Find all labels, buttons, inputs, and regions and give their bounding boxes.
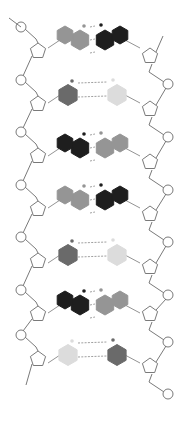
- phosphodiester-bond: [149, 222, 164, 240]
- atom-dot: [111, 78, 115, 82]
- hydrogen-bond: [78, 82, 107, 83]
- phosphate-circle: [163, 290, 173, 300]
- base-pair: [48, 288, 140, 318]
- base-pair: [48, 78, 140, 105]
- hydrogen-bond: [90, 199, 95, 200]
- phosphate-circle: [163, 389, 173, 399]
- glycosidic-bond: [125, 255, 140, 263]
- hydrogen-bond: [90, 212, 95, 213]
- purine-pent-ring: [112, 26, 128, 44]
- hydrogen-bond: [78, 356, 107, 357]
- phosphodiester-bond: [149, 374, 164, 392]
- glycosidic-bond: [48, 95, 60, 103]
- phosphodiester-bond: [25, 134, 38, 148]
- left-backbone-strand: [9, 18, 46, 385]
- phosphate-circle: [16, 232, 26, 242]
- phosphate-circle: [16, 75, 26, 85]
- phosphate-circle: [16, 127, 26, 137]
- base-pair: [48, 238, 140, 265]
- hydrogen-bond: [90, 317, 95, 318]
- phosphodiester-bond: [149, 64, 164, 82]
- atom-dot: [99, 183, 103, 187]
- hydrogen-bond: [78, 242, 107, 243]
- hydrogen-bond: [78, 96, 107, 97]
- purine-hex-ring: [71, 190, 88, 210]
- hydrogen-bond: [90, 26, 95, 27]
- purine-hex-ring: [96, 138, 113, 158]
- glycosidic-bond: [48, 200, 60, 208]
- hydrogen-bond: [90, 52, 95, 53]
- phosphate-circle: [163, 237, 173, 247]
- purine-pent-ring: [112, 186, 128, 204]
- phosphate-circle: [16, 285, 26, 295]
- pyrimidine-ring: [59, 85, 77, 106]
- hydrogen-bond: [90, 134, 95, 135]
- hydrogen-bond: [90, 304, 95, 305]
- phosphate-circle: [16, 180, 26, 190]
- atom-dot: [70, 239, 74, 243]
- glycosidic-bond: [48, 305, 60, 313]
- phosphate-circle: [163, 185, 173, 195]
- sugar-pentagon: [142, 101, 157, 116]
- phosphodiester-bond: [23, 214, 32, 233]
- pyrimidine-ring: [108, 245, 126, 266]
- atom-dot: [82, 24, 86, 28]
- phosphodiester-bond: [25, 187, 38, 201]
- purine-hex-ring: [96, 30, 113, 50]
- base-pair: [48, 131, 140, 161]
- atom-dot: [82, 132, 86, 136]
- hydrogen-bond: [78, 342, 107, 343]
- hydrogen-bond: [90, 186, 95, 187]
- base-pair: [48, 23, 140, 53]
- purine-pent-ring: [112, 291, 128, 309]
- hydrogen-bond: [90, 39, 95, 40]
- atom-dot: [82, 184, 86, 188]
- hydrogen-bond: [90, 291, 95, 292]
- atom-dot: [99, 288, 103, 292]
- purine-pent-ring: [57, 291, 73, 309]
- phosphodiester-bond: [156, 246, 166, 263]
- sugar-pentagon: [30, 253, 45, 268]
- purine-hex-ring: [96, 295, 113, 315]
- glycosidic-bond: [48, 40, 60, 48]
- sugar-pentagon: [142, 154, 157, 169]
- purine-pent-ring: [57, 26, 73, 44]
- base-pairs: [48, 23, 140, 365]
- glycosidic-bond: [125, 148, 140, 156]
- hydrogen-bond: [90, 160, 95, 161]
- phosphodiester-bond: [25, 292, 38, 306]
- glycosidic-bond: [48, 148, 60, 156]
- glycosidic-bond: [125, 40, 140, 48]
- pyrimidine-ring: [59, 245, 77, 266]
- sugar-pentagon: [142, 259, 157, 274]
- atom-dot: [82, 289, 86, 293]
- pyrimidine-ring: [108, 345, 126, 366]
- phosphodiester-bond: [156, 141, 166, 158]
- atom-dot: [99, 131, 103, 135]
- phosphodiester-bond: [156, 88, 166, 105]
- base-pair: [48, 183, 140, 213]
- glycosidic-bond: [48, 355, 60, 363]
- phosphodiester-bond: [25, 29, 38, 43]
- sugar-pentagon: [142, 358, 157, 373]
- phosphodiester-bond: [149, 170, 164, 188]
- atom-dot: [111, 338, 115, 342]
- phosphate-circle: [16, 330, 26, 340]
- pyrimidine-ring: [108, 85, 126, 106]
- atom-dot: [70, 339, 74, 343]
- glycosidic-bond: [125, 95, 140, 103]
- hydrogen-bond: [78, 256, 107, 257]
- phosphodiester-bond: [25, 337, 38, 351]
- phosphate-circle: [163, 337, 173, 347]
- glycosidic-bond: [48, 255, 60, 263]
- atom-dot: [99, 23, 103, 27]
- right-backbone-strand: [142, 36, 173, 399]
- sugar-pentagon: [30, 43, 45, 58]
- phosphodiester-bond: [23, 319, 32, 331]
- phosphodiester-bond: [23, 109, 32, 128]
- purine-pent-ring: [57, 134, 73, 152]
- glycosidic-bond: [125, 200, 140, 208]
- hydrogen-bond: [90, 147, 95, 148]
- phosphodiester-bond: [23, 161, 32, 181]
- purine-hex-ring: [71, 295, 88, 315]
